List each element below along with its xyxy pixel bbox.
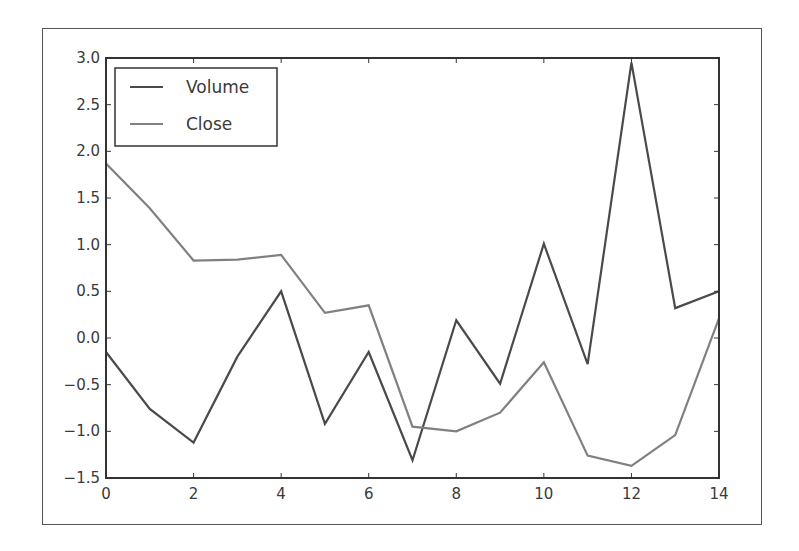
- x-tick-label: 4: [276, 485, 286, 503]
- x-tick-label: 10: [534, 485, 553, 503]
- x-tick-label: 6: [364, 485, 374, 503]
- line-chart: 02468101214−1.5−1.0−0.50.00.51.01.52.02.…: [0, 0, 799, 551]
- y-tick-label: 2.0: [76, 142, 100, 160]
- legend-label-close: Close: [186, 114, 232, 134]
- x-tick-label: 14: [709, 485, 728, 503]
- series-line-close: [106, 163, 719, 465]
- x-tick-label: 8: [452, 485, 462, 503]
- x-tick-label: 2: [189, 485, 199, 503]
- legend: Volume Close: [115, 68, 277, 146]
- y-tick-label: 3.0: [76, 49, 100, 67]
- x-tick-label: 0: [101, 485, 111, 503]
- y-tick-label: 0.0: [76, 329, 100, 347]
- y-tick-label: −0.5: [64, 376, 100, 394]
- y-tick-label: 2.5: [76, 96, 100, 114]
- y-tick-label: 1.0: [76, 236, 100, 254]
- legend-label-volume: Volume: [186, 77, 249, 97]
- y-tick-label: 0.5: [76, 282, 100, 300]
- y-tick-label: −1.0: [64, 422, 100, 440]
- x-tick-label: 12: [622, 485, 641, 503]
- y-tick-label: −1.5: [64, 469, 100, 487]
- y-tick-label: 1.5: [76, 189, 100, 207]
